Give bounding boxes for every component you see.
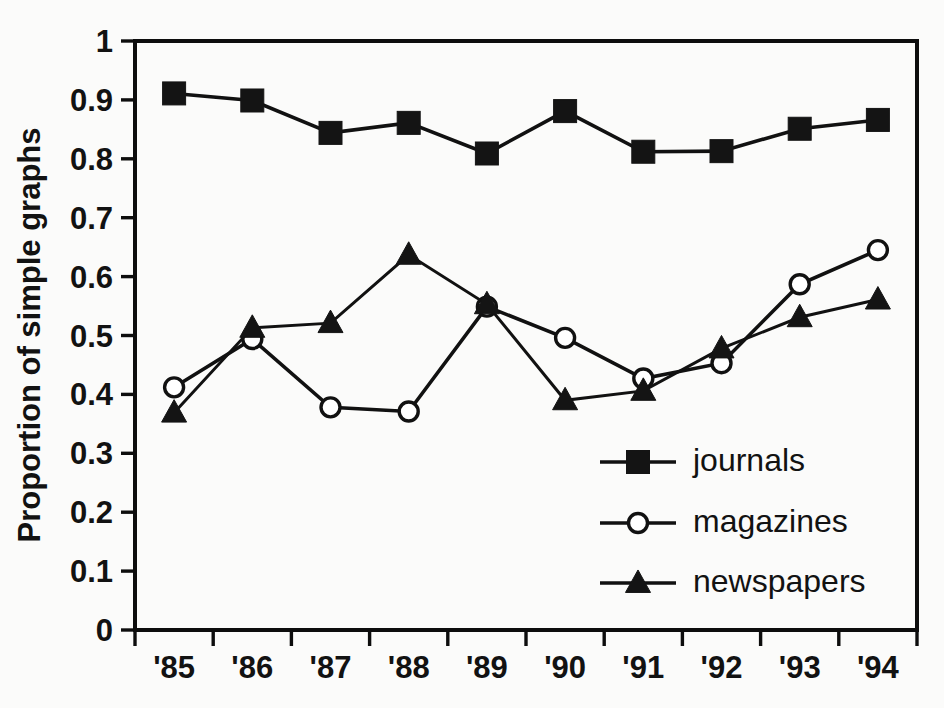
series-journals	[163, 82, 890, 165]
series-journals-point-4-square-marker	[475, 142, 498, 165]
series-magazines-point-9-circle-marker	[868, 241, 887, 260]
x-tick-label: '92	[701, 650, 743, 685]
chart-figure: 00.10.20.30.40.50.60.70.80.91 '85'86'87'…	[0, 0, 944, 708]
x-tick-label: '91	[622, 650, 664, 685]
series-journals-point-9-square-marker	[866, 108, 889, 131]
y-tick-label: 0.9	[70, 83, 113, 118]
series-journals-point-1-square-marker	[241, 89, 264, 112]
y-tick-label: 0.7	[70, 201, 113, 236]
y-tick-label: 0	[96, 613, 113, 648]
x-tick-label: '87	[310, 650, 352, 685]
line-chart: 00.10.20.30.40.50.60.70.80.91 '85'86'87'…	[0, 0, 944, 708]
y-axis-title: Proportion of simple graphs	[12, 127, 47, 542]
y-tick-label: 0.2	[70, 495, 113, 530]
x-axis-tick-labels: '85'86'87'88'89'90'91'92'93'94	[153, 650, 899, 685]
series-journals-point-0-square-marker	[163, 82, 186, 105]
y-tick-label: 0.6	[70, 260, 113, 295]
legend-magazines-circle-marker	[629, 514, 648, 533]
series-magazines	[165, 241, 888, 421]
y-axis-ticks	[121, 41, 135, 630]
y-tick-label: 0.8	[70, 142, 113, 177]
x-tick-label: '93	[779, 650, 821, 685]
x-tick-label: '90	[544, 650, 586, 685]
series-magazines-point-2-circle-marker	[321, 398, 340, 417]
legend-item-magazines[interactable]: magazines	[600, 503, 848, 539]
series-journals-point-6-square-marker	[632, 140, 655, 163]
series-newspapers	[162, 242, 891, 422]
chart-legend: journalsmagazinesnewspapers	[600, 442, 866, 599]
x-tick-label: '89	[466, 650, 508, 685]
x-tick-label: '85	[153, 650, 195, 685]
y-tick-label: 0.3	[70, 436, 113, 471]
series-journals-point-8-square-marker	[788, 117, 811, 140]
series-magazines-point-5-circle-marker	[556, 328, 575, 347]
x-tick-label: '86	[231, 650, 273, 685]
series-magazines-point-3-circle-marker	[399, 402, 418, 421]
series-line-journals	[174, 93, 878, 153]
legend-item-newspapers[interactable]: newspapers	[600, 563, 866, 599]
legend-item-journals[interactable]: journals	[600, 442, 805, 478]
series-journals-point-2-square-marker	[319, 121, 342, 144]
series-newspapers-point-2-triangle-marker	[318, 310, 343, 332]
series-journals-point-5-square-marker	[554, 100, 577, 123]
y-tick-label: 1	[96, 24, 113, 59]
y-tick-label: 0.5	[70, 319, 113, 354]
y-axis-tick-labels: 00.10.20.30.40.50.60.70.80.91	[70, 24, 114, 648]
series-journals-point-7-square-marker	[710, 140, 733, 163]
legend-label-journals: journals	[692, 442, 805, 478]
series-magazines-point-0-circle-marker	[165, 378, 184, 397]
series-newspapers-point-3-triangle-marker	[396, 242, 421, 264]
series-line-magazines	[174, 250, 878, 411]
legend-journals-square-marker	[627, 451, 650, 474]
series-journals-point-3-square-marker	[397, 111, 420, 134]
x-tick-label: '94	[857, 650, 900, 685]
series-line-newspapers	[174, 255, 878, 413]
series-newspapers-point-7-triangle-marker	[709, 335, 734, 357]
series-newspapers-point-9-triangle-marker	[865, 287, 890, 309]
legend-label-newspapers: newspapers	[693, 563, 866, 599]
y-tick-label: 0.1	[70, 554, 113, 589]
x-axis-ticks	[135, 630, 917, 646]
y-tick-label: 0.4	[70, 377, 114, 412]
x-tick-label: '88	[388, 650, 430, 685]
data-series	[162, 82, 891, 422]
legend-label-magazines: magazines	[693, 503, 848, 539]
series-magazines-point-8-circle-marker	[790, 275, 809, 294]
